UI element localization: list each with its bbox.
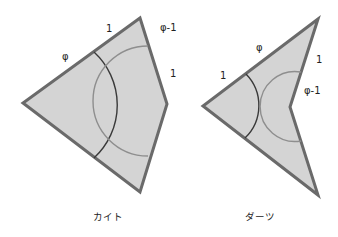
kite-edge-label-phi: φ (62, 51, 69, 62)
penrose-tiles-diagram (0, 0, 338, 237)
dart-caption: ダーツ (245, 209, 275, 223)
kite-edge-label-one-right: 1 (170, 68, 176, 79)
kite-caption: カイト (93, 209, 123, 223)
dart-edge-label-phi: φ (256, 42, 263, 53)
kite-edge-label-one: 1 (106, 23, 112, 34)
dart-edge-label-one: 1 (220, 70, 226, 81)
kite-edge-label-phi-minus-one: φ-1 (160, 22, 177, 33)
dart-edge-label-phi-minus-one: φ-1 (304, 85, 321, 96)
dart-edge-label-one-right: 1 (316, 54, 322, 65)
kite-shape (23, 18, 167, 192)
